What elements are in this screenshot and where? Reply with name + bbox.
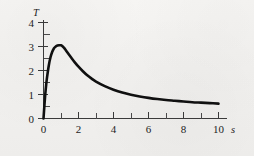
data-curve [44,45,219,118]
x-tick-label-2: 2 [76,123,82,135]
x-tick-label-10: 10 [213,123,225,135]
y-axis-title: T [33,7,40,18]
x-tick-label-8: 8 [181,123,187,135]
x-tick-label-6: 6 [146,123,152,135]
plot-area: 0 1 2 3 4 0 2 4 6 8 10 T s [0,0,254,156]
x-axis-minor-ticks [61,113,201,119]
y-tick-label-4: 4 [29,17,35,29]
x-axis-title: s [231,124,235,135]
y-tick-label-1: 1 [29,89,35,101]
y-tick-label-0: 0 [29,113,35,125]
x-tick-label-0: 0 [41,123,47,135]
y-tick-label-2: 2 [29,65,35,77]
x-tick-label-4: 4 [111,123,117,135]
figure-container: 0 1 2 3 4 0 2 4 6 8 10 T s [0,0,254,156]
y-tick-label-3: 3 [29,41,35,53]
